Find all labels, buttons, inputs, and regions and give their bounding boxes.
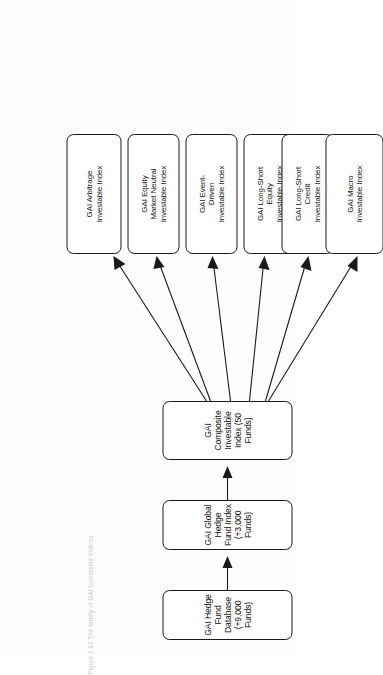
node-equity-market-neutral-line-3: Investable Index	[158, 166, 167, 223]
node-long-short-credit-line-3: Investable Index	[312, 166, 321, 223]
node-arbitrage-label: GAI Arbitrage Investable Index	[84, 166, 103, 223]
node-arbitrage-line-2: Investable Index	[94, 166, 103, 223]
arrow-global-index-to-composite-index	[222, 466, 232, 500]
node-long-short-equity-line-2: Equity	[264, 183, 273, 205]
node-global-index-label: GAI Global Hedge Fund Index (+3,000 Fund…	[202, 504, 253, 546]
node-macro-line-2: Investable Index	[354, 166, 363, 223]
node-equity-market-neutral[interactable]: GAI Equity Market Neutral Investable Ind…	[127, 134, 179, 254]
arrow-composite-to-equity-market-neutral	[153, 256, 210, 401]
node-long-short-equity-label: GAI Long-Short Equity Investable Index	[255, 166, 283, 223]
node-macro-line-1: GAI Macro	[345, 175, 354, 212]
node-equity-market-neutral-label: GAI Equity Market Neutral Investable Ind…	[139, 166, 167, 223]
node-arbitrage-line-1: GAI Arbitrage	[84, 171, 93, 218]
arrow-database-to-global-index	[222, 556, 232, 590]
node-long-short-credit-line-1: GAI Long-Short	[293, 167, 302, 221]
node-global-index[interactable]: GAI Global Hedge Fund Index (+3,000 Fund…	[162, 500, 292, 550]
node-event-driven-line-2: Driven	[206, 183, 215, 206]
node-arbitrage[interactable]: GAI Arbitrage Investable Index	[66, 134, 121, 254]
node-event-driven[interactable]: GAI Event- Driven Investable Index	[185, 134, 237, 254]
node-database[interactable]: GAI Hedge Fund Database (+9,000 Funds)	[162, 590, 292, 640]
figure-caption: Figure 3.13 The family of GAI Investable…	[87, 415, 94, 675]
node-composite-index[interactable]: GAI Composite Investable Index (50 Funds…	[162, 401, 292, 460]
arrow-composite-to-event-driven	[207, 256, 230, 401]
node-macro[interactable]: GAI Macro Investable Index	[325, 134, 383, 254]
arrow-composite-to-arbitrage	[113, 256, 206, 401]
node-equity-market-neutral-line-1: GAI Equity	[139, 175, 148, 212]
arrow-composite-to-long-short-equity	[249, 256, 269, 401]
node-event-driven-line-3: Investable Index	[216, 166, 225, 223]
node-equity-market-neutral-line-2: Market Neutral	[148, 168, 157, 219]
arrow-composite-to-macro	[268, 256, 357, 401]
node-long-short-credit-line-2: Credit	[302, 184, 311, 205]
node-event-driven-line-1: GAI Event-	[197, 175, 206, 213]
node-database-label: GAI Hedge Fund Database (+9,000 Funds)	[202, 594, 253, 636]
node-composite-index-label: GAI Composite Investable Index (50 Funds…	[202, 405, 253, 456]
node-event-driven-label: GAI Event- Driven Investable Index	[197, 166, 225, 223]
node-long-short-credit-label: GAI Long-Short Credit Investable Index	[293, 166, 321, 223]
node-macro-label: GAI Macro Investable Index	[345, 166, 364, 223]
node-long-short-equity-line-1: GAI Long-Short	[255, 167, 264, 221]
arrow-composite-to-long-short-credit	[265, 256, 311, 401]
